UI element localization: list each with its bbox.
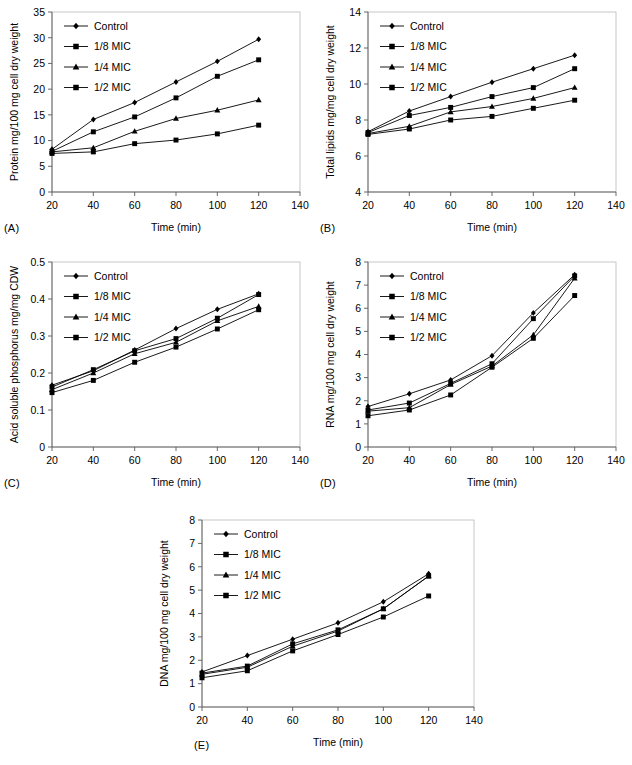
legend-label: Control [94, 270, 128, 282]
legend: Control1/8 MIC1/4 MIC1/2 MIC [214, 528, 281, 602]
plot-frame [202, 520, 474, 707]
x-tick-label: 80 [170, 454, 182, 466]
panel-label-E: (E) [194, 739, 209, 751]
data-point [531, 336, 536, 341]
y-tick-label: 20 [33, 83, 45, 95]
x-tick-label: 40 [403, 199, 415, 211]
y-axis-title: Acid soluble phosphorus mg/mg CDW [8, 266, 20, 443]
legend-label: Control [94, 20, 128, 32]
y-tick-label: 5 [39, 160, 45, 172]
series-group [365, 52, 578, 137]
y-tick-label: 15 [33, 109, 45, 121]
plot-frame [368, 12, 616, 192]
y-tick-label: 25 [33, 57, 45, 69]
data-point [381, 615, 386, 620]
data-point [490, 114, 495, 119]
y-tick-label: 7 [355, 279, 361, 291]
x-tick-label: 40 [241, 714, 253, 726]
data-point [256, 123, 261, 128]
data-point [132, 141, 137, 146]
series-line-1-8-mic [52, 60, 259, 152]
data-point [174, 95, 179, 100]
data-point [490, 94, 495, 99]
legend-label: 1/2 MIC [410, 331, 447, 343]
x-axis-title: Time (min) [151, 476, 201, 488]
data-point [91, 129, 96, 134]
series-group [199, 571, 432, 680]
data-point [50, 151, 55, 156]
y-tick-label: 0 [39, 441, 45, 453]
x-tick-label: 20 [196, 714, 208, 726]
legend-marker-square [389, 44, 395, 50]
y-tick-label: 4 [189, 607, 195, 619]
x-tick-label: 40 [87, 454, 99, 466]
x-tick-label: 140 [465, 714, 483, 726]
legend-label: 1/4 MIC [410, 61, 447, 73]
y-tick-label: 8 [189, 514, 195, 526]
data-point [531, 66, 536, 72]
x-tick-label: 40 [403, 454, 415, 466]
y-tick-label: 14 [349, 6, 361, 18]
x-tick-label: 100 [209, 454, 227, 466]
legend-marker-diamond [73, 23, 78, 30]
data-point [407, 408, 412, 413]
legend-marker-diamond [73, 273, 78, 280]
data-point [215, 306, 220, 312]
data-point [407, 391, 412, 397]
chart-E: 01234567820406080100120140Time (min)DNA … [150, 508, 490, 765]
legend-label: Control [410, 270, 444, 282]
data-point [572, 52, 577, 58]
data-point [174, 326, 179, 332]
y-tick-label: 3 [355, 371, 361, 383]
legend-label: 1/8 MIC [94, 290, 131, 302]
data-point [215, 131, 220, 136]
data-point [132, 360, 137, 365]
panel-E: 01234567820406080100120140Time (min)DNA … [150, 508, 490, 765]
data-point [256, 307, 261, 312]
panel-label-C: (C) [4, 477, 20, 489]
legend-label: 1/8 MIC [410, 290, 447, 302]
legend-marker-triangle [389, 64, 396, 70]
series-line-1-2-mic [52, 310, 259, 393]
data-point [91, 378, 96, 383]
y-tick-label: 2 [189, 654, 195, 666]
legend-label: 1/8 MIC [410, 40, 447, 52]
data-point [572, 98, 577, 103]
panel-A: 0510152025303520406080100120140Time (min… [0, 0, 316, 250]
legend: Control1/8 MIC1/4 MIC1/2 MIC [64, 270, 131, 344]
data-point [531, 85, 536, 90]
data-point [50, 390, 55, 395]
data-point [91, 149, 96, 154]
series-line-1-8-mic [368, 276, 575, 410]
data-point [490, 365, 495, 370]
data-point [290, 648, 295, 653]
data-point [381, 599, 386, 605]
data-point [336, 620, 341, 626]
y-axis-title: RNA mg/100 mg cell dry weight [324, 281, 336, 428]
y-tick-label: 12 [349, 42, 361, 54]
panel-B: 46810121420406080100120140Time (min)Tota… [316, 0, 632, 250]
legend-marker-square [73, 335, 79, 341]
legend-label: Control [244, 528, 278, 540]
legend-marker-square [73, 294, 79, 300]
y-tick-label: 0 [355, 441, 361, 453]
legend: Control1/8 MIC1/4 MIC1/2 MIC [380, 20, 447, 94]
legend-label: 1/2 MIC [94, 81, 131, 93]
plot-frame [52, 12, 300, 192]
series-line-1-8-mic [52, 295, 259, 388]
y-tick-label: 4 [355, 186, 361, 198]
x-tick-label: 140 [291, 454, 309, 466]
legend-label: 1/4 MIC [94, 61, 131, 73]
y-tick-label: 6 [355, 302, 361, 314]
legend-label: 1/4 MIC [244, 569, 281, 581]
data-point [336, 632, 341, 637]
data-point [572, 66, 577, 71]
y-tick-label: 0 [189, 701, 195, 713]
panel-C: 00.10.20.30.40.520406080100120140Time (m… [0, 250, 316, 505]
y-tick-label: 0.5 [30, 256, 45, 268]
data-point [531, 106, 536, 111]
x-tick-label: 60 [129, 199, 141, 211]
data-point [200, 675, 205, 680]
y-tick-label: 6 [189, 561, 195, 573]
x-tick-label: 140 [291, 199, 309, 211]
